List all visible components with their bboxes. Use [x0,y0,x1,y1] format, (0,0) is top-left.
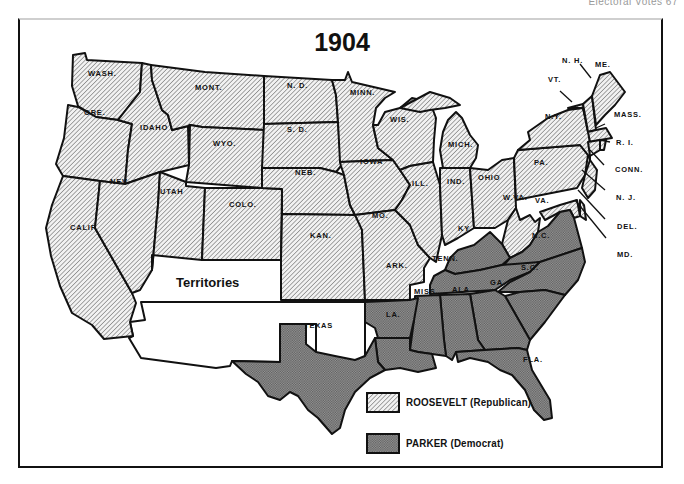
label-ri: R. I. [616,138,634,147]
label-texas: TEXAS [304,321,333,330]
label-ind: IND. [447,177,465,186]
label-nc: N.C. [532,231,550,240]
label-ky: KY. [458,224,472,233]
hatch-swatch-icon [366,392,400,413]
us-map: WASH. ORE. CALIF. IDAHO NEV. MONT. WYO. … [0,0,684,484]
label-ill: ILL. [412,179,429,188]
label-territories: Territories [176,275,239,290]
label-iowa: IOWA [360,157,383,166]
label-utah: UTAH [160,187,183,196]
label-sc: S.C. [521,263,539,272]
label-ohio: OHIO [478,173,500,182]
label-miss: MISS. [414,287,438,296]
label-mich: MICH. [448,140,473,149]
legend-label-democrat: PARKER (Democrat) [406,437,504,449]
legend-label-republican: ROOSEVELT (Republican) [406,396,531,408]
label-tenn: TENN. [432,254,459,263]
label-nev: NEV. [110,177,130,186]
label-mont: MONT. [195,83,222,92]
label-colo: COLO. [229,200,257,209]
label-wyo: WYO. [213,139,236,148]
label-del: DEL. [617,222,637,231]
legend: ROOSEVELT (Republican) PARKER (Democrat) [366,392,553,474]
state-colo [202,188,282,260]
state-wyo [186,125,264,188]
label-nd: N. D. [287,81,308,90]
label-la: LA. [386,310,400,319]
label-neb: NEB. [295,168,316,177]
label-wis: WIS. [390,115,409,124]
legend-item-republican: ROOSEVELT (Republican) [366,392,553,412]
leader-md [575,200,606,238]
state-pa [514,145,588,200]
label-pa: PA. [534,158,548,167]
leader-vt [560,91,572,102]
label-ga: GA. [490,278,506,287]
legend-item-democrat: PARKER (Democrat) [366,433,553,453]
label-minn: MINN. [350,88,375,97]
label-wva: W.VA. [503,193,528,202]
label-vt: VT. [548,75,561,84]
label-mo: MO. [372,211,389,220]
label-nj: N. J. [616,193,636,202]
label-md: MD. [617,250,633,259]
label-ark: ARK. [386,261,408,270]
label-fla: FLA. [523,355,543,364]
label-ala: ALA. [452,285,473,294]
label-wash: WASH. [88,69,117,78]
label-calif: CALIF. [70,223,98,232]
label-kan: KAN. [310,231,332,240]
label-ore: ORE. [84,108,106,117]
label-va: VA. [535,196,549,205]
dots-swatch-icon [366,433,400,454]
label-nh: N. H. [562,56,583,65]
label-mass: MASS. [614,110,642,119]
label-conn: CONN. [615,165,643,174]
label-me: ME. [595,60,611,69]
leader-nh [580,64,591,78]
label-idaho: IDAHO [140,123,168,132]
label-sd: S. D. [287,125,308,134]
state-kan [281,214,365,300]
label-ny: N.Y. [545,112,562,121]
